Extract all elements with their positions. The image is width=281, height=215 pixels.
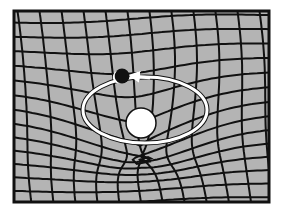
frame-background bbox=[14, 11, 269, 202]
spacetime-curvature-diagram bbox=[0, 0, 281, 215]
central-mass bbox=[126, 108, 156, 138]
orbit-arrow-icon bbox=[134, 76, 150, 78]
